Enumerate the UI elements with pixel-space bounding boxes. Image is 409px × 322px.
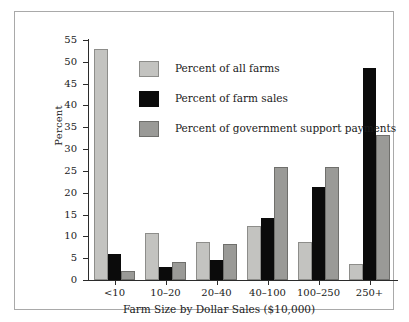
legend-swatch-icon bbox=[139, 121, 159, 137]
bar bbox=[247, 226, 261, 280]
y-tick-label: 10 bbox=[37, 231, 77, 241]
bar bbox=[121, 271, 135, 280]
y-tick-label: 50 bbox=[37, 57, 77, 67]
bar bbox=[210, 260, 224, 280]
bar bbox=[223, 244, 237, 280]
legend-item: Percent of farm sales bbox=[139, 91, 389, 121]
bar bbox=[298, 242, 312, 280]
legend-label: Percent of government support payments bbox=[175, 122, 396, 134]
bar bbox=[349, 264, 363, 280]
x-axis-title: Farm Size by Dollar Sales ($10,000) bbox=[29, 303, 409, 315]
x-tick-mark bbox=[268, 280, 269, 285]
x-tick-mark bbox=[370, 280, 371, 285]
legend-item: Percent of all farms bbox=[139, 61, 389, 91]
y-tick-label: 5 bbox=[37, 253, 77, 263]
figure-canvas: Percent 0510152025303540455055 <1010–202… bbox=[0, 0, 409, 322]
y-tick-label: 30 bbox=[37, 144, 77, 154]
y-tick-label: 0 bbox=[37, 275, 77, 285]
chart-frame: Percent 0510152025303540455055 <1010–202… bbox=[14, 11, 394, 310]
bar bbox=[312, 187, 326, 280]
bar bbox=[325, 167, 339, 280]
bar bbox=[261, 218, 275, 280]
x-tick-mark bbox=[319, 280, 320, 285]
x-tick-mark bbox=[217, 280, 218, 285]
bar bbox=[145, 233, 159, 280]
bar bbox=[274, 167, 288, 280]
y-tick-mark bbox=[83, 280, 89, 281]
bar bbox=[94, 49, 108, 280]
legend-label: Percent of farm sales bbox=[175, 92, 288, 104]
chart-legend: Percent of all farmsPercent of farm sale… bbox=[139, 61, 389, 151]
y-tick-label: 35 bbox=[37, 122, 77, 132]
x-axis-line bbox=[88, 280, 398, 281]
y-tick-label: 15 bbox=[37, 210, 77, 220]
x-tick-label: 250+ bbox=[330, 288, 409, 298]
y-tick-label: 55 bbox=[37, 35, 77, 45]
x-tick-mark bbox=[115, 280, 116, 285]
bar bbox=[376, 135, 390, 280]
y-tick-label: 20 bbox=[37, 188, 77, 198]
x-tick-mark bbox=[166, 280, 167, 285]
y-tick-label: 45 bbox=[37, 79, 77, 89]
legend-swatch-icon bbox=[139, 91, 159, 107]
legend-label: Percent of all farms bbox=[175, 62, 280, 74]
bar bbox=[196, 242, 210, 280]
y-tick-label: 40 bbox=[37, 100, 77, 110]
bar bbox=[159, 267, 173, 280]
bar bbox=[172, 262, 186, 280]
y-tick-label: 25 bbox=[37, 166, 77, 176]
legend-item: Percent of government support payments bbox=[139, 121, 389, 151]
legend-swatch-icon bbox=[139, 61, 159, 77]
bar bbox=[108, 254, 122, 280]
